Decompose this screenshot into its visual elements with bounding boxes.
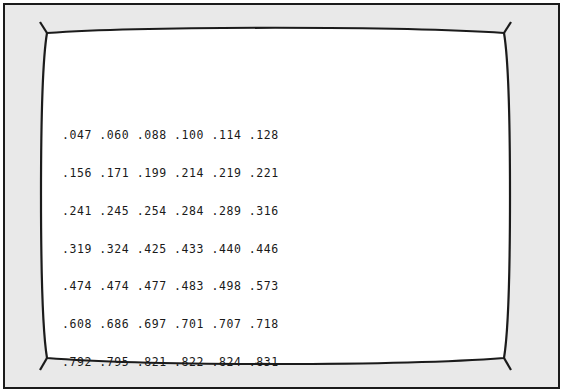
sorted-number-row: .792 .795 .821 .822 .824 .831 [62, 356, 482, 369]
screenshot-root: .047 .060 .088 .100 .114 .128 .156 .171 … [0, 0, 563, 392]
crt-text-output: .047 .060 .088 .100 .114 .128 .156 .171 … [62, 104, 482, 392]
sorted-number-row: .608 .686 .697 .701 .707 .718 [62, 318, 482, 331]
sorted-number-row: .241 .245 .254 .284 .289 .316 [62, 205, 482, 218]
sorted-number-row: .156 .171 .199 .214 .219 .221 [62, 167, 482, 180]
sorted-number-row: .319 .324 .425 .433 .440 .446 [62, 243, 482, 256]
sorted-number-row: .047 .060 .088 .100 .114 .128 [62, 129, 482, 142]
sorted-number-row: .474 .474 .477 .483 .498 .573 [62, 280, 482, 293]
